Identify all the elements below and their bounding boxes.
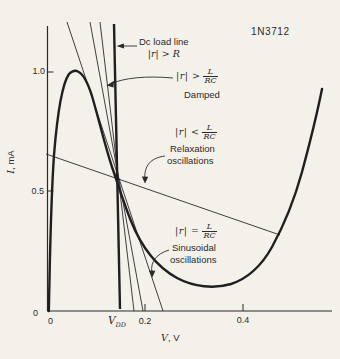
sinusoidal-condition-lhs: |r| =	[175, 226, 199, 237]
relaxation-caption-line2: oscillations	[167, 156, 213, 167]
dc-load-annotation-line2: |r| > R	[139, 49, 189, 60]
sinusoidal-fraction: L RC	[202, 223, 216, 241]
x-tick-label-0: 0	[48, 316, 53, 326]
diode-iv-curve	[49, 71, 322, 311]
x-axis-title: V, V	[161, 333, 180, 344]
vdd-symbol: V	[108, 314, 116, 326]
damped-condition-lhs: |r| >	[176, 71, 200, 82]
damped-fraction: L RC	[203, 68, 217, 86]
y-axis-title-symbol: I	[5, 170, 16, 174]
y-axis-title: I, mA	[6, 139, 18, 185]
x-axis-title-unit: , V	[168, 332, 180, 343]
part-number-label: 1N3712	[251, 26, 290, 38]
sinusoidal-arrowhead	[149, 271, 155, 278]
sinusoidal-fraction-denominator: RC	[202, 232, 216, 240]
relaxation-condition: |r| < L RC	[175, 124, 217, 142]
axis-tick-marks	[48, 72, 243, 311]
y-tick-label-0.5: 0.5	[26, 186, 44, 196]
sinusoidal-condition: |r| = L RC	[175, 223, 217, 241]
relaxation-caption-line1: Relaxation	[170, 144, 215, 155]
y-tick-label-0: 0	[33, 308, 38, 318]
relaxation-load-line	[46, 154, 280, 235]
dc-arrowhead	[117, 43, 125, 48]
sinusoidal-caption-line2: oscillations	[170, 255, 216, 266]
damped-caption: Damped	[184, 90, 220, 101]
damped-condition: |r| > L RC	[176, 68, 218, 86]
dc-load-annotation-line1: Dc load line	[139, 36, 189, 47]
x-tick-label-0.2: 0.2	[136, 316, 154, 326]
relaxation-fraction: L RC	[202, 124, 216, 142]
relaxation-fraction-denominator: RC	[202, 133, 216, 141]
vdd-label: VDD	[108, 314, 126, 329]
relaxation-arrowhead	[142, 176, 148, 183]
relaxation-condition-lhs: |r| <	[175, 127, 199, 138]
damped-fraction-denominator: RC	[203, 77, 217, 85]
dc-load-annotation: Dc load line |r| > R	[139, 37, 189, 60]
x-tick-label-0.4: 0.4	[234, 315, 252, 325]
relaxation-leader	[145, 156, 165, 178]
figure-tunnel-diode-chart: 1N3712 Dc load line |r| > R |r| > L RC D…	[0, 0, 340, 359]
vdd-subscript: DD	[116, 321, 126, 329]
damped-leader	[110, 77, 173, 84]
y-tick-label-1.0: 1.0	[27, 66, 45, 76]
y-axis-title-unit: , mA	[5, 150, 16, 170]
x-axis-title-symbol: V	[161, 332, 168, 343]
sinusoidal-caption-line1: Sinusoidal	[172, 243, 216, 254]
